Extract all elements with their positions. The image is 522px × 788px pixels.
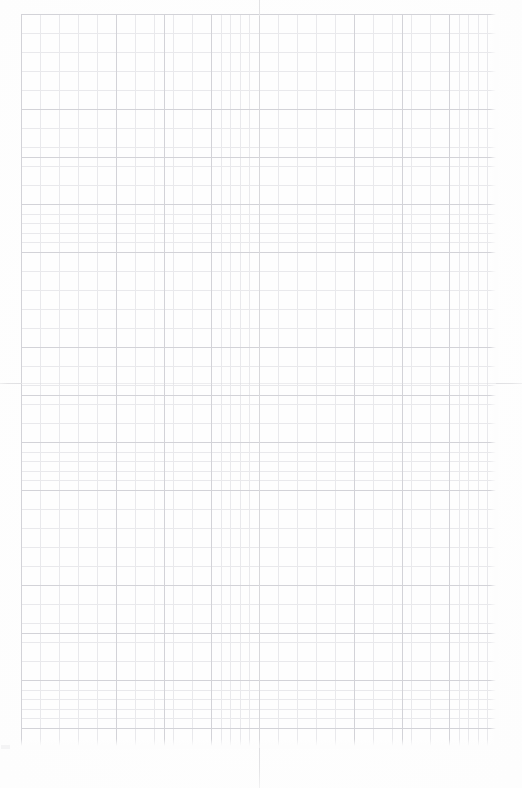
center-horizontal-guide (21, 383, 497, 384)
registration-mark-bottom (259, 748, 260, 788)
grid-right-fade (490, 14, 498, 748)
center-vertical-guide (259, 14, 260, 748)
registration-mark-right (496, 383, 522, 384)
graph-paper-page (0, 0, 522, 788)
registration-mark-top (259, 0, 260, 16)
registration-mark-left (0, 383, 22, 384)
scan-artifact-speck (1, 745, 10, 749)
